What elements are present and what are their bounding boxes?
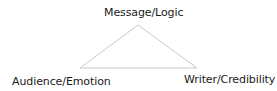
vertex-label-message-logic: Message/Logic xyxy=(104,6,183,19)
triangle-outline xyxy=(80,25,197,68)
vertex-label-audience-emotion: Audience/Emotion xyxy=(12,75,111,88)
vertex-label-writer-credibility: Writer/Credibility xyxy=(184,73,275,86)
rhetorical-triangle-diagram: Message/Logic Audience/Emotion Writer/Cr… xyxy=(0,0,277,91)
